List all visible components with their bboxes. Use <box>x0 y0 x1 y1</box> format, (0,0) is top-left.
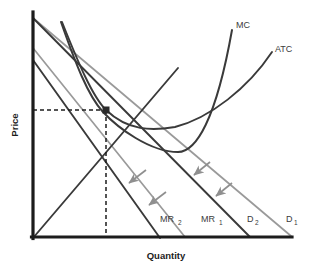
label-mc: MC <box>236 20 250 30</box>
label-mr1-text: MR <box>201 214 215 224</box>
label-mr1-subscript: 1 <box>219 219 223 226</box>
tangency-point-marker <box>103 107 110 114</box>
label-mr2-text: MR <box>160 214 174 224</box>
x-axis-title: Quantity <box>147 250 186 261</box>
y-axis-title: Price <box>9 113 20 136</box>
label-d1-text: D <box>286 214 293 224</box>
label-mr2-subscript: 2 <box>178 219 182 226</box>
label-d1-subscript: 1 <box>294 219 298 226</box>
label-d2-text: D <box>247 214 254 224</box>
chart-canvas: MC ATC MR 2 MR 1 D 2 D 1 Price Quantity <box>0 0 315 268</box>
label-d2-subscript: 2 <box>255 219 259 226</box>
economics-diagram: MC ATC MR 2 MR 1 D 2 D 1 Price Quantity <box>0 0 315 268</box>
label-atc: ATC <box>275 44 293 54</box>
